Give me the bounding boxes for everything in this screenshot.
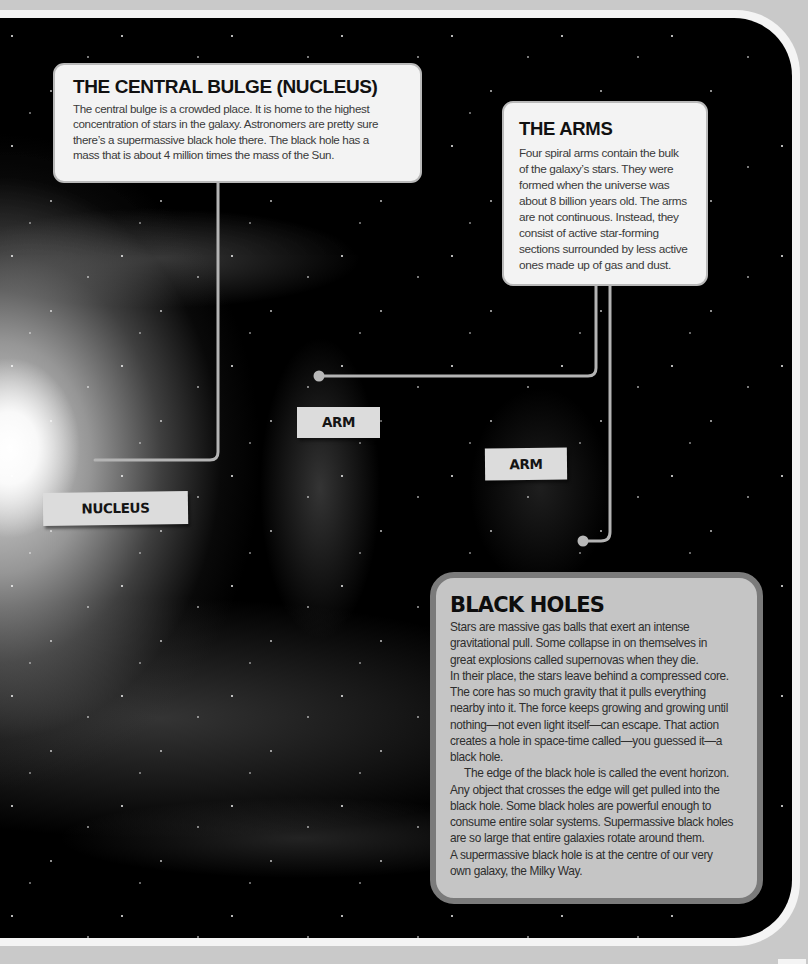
black-holes-text-line: consume entire solar systems. Supermassi…	[450, 814, 757, 830]
central-bulge-text-line: mass that is about 4 million times the m…	[73, 147, 420, 162]
black-holes-text-line: are so large that entire galaxies rotate…	[450, 830, 757, 846]
arms-text-line: of the galaxy’s stars. They were	[519, 161, 706, 177]
arms-title: THE ARMS	[519, 120, 706, 139]
black-holes-text-line: black hole. Some black holes are powerfu…	[450, 798, 757, 814]
arms-text-line: about 8 billion years old. The arms	[519, 193, 706, 209]
black-holes-text-line: Any object that crosses the edge will ge…	[450, 782, 757, 798]
arm-label-2: ARM	[485, 448, 567, 481]
nucleus-label: NUCLEUS	[43, 491, 188, 526]
arms-text-line: formed when the universe was	[519, 177, 706, 193]
central-bulge-text-line: concentration of stars in the galaxy. As…	[73, 116, 420, 131]
black-holes-text-line: nearby into it. The force keeps growing …	[450, 700, 757, 716]
black-holes-text-line: great explosions called supernovas when …	[450, 652, 757, 668]
arm-label-1: ARM	[297, 407, 380, 438]
black-holes-title: BLACK HOLES	[450, 595, 757, 616]
black-holes-text-line: The core has so much gravity that it pul…	[450, 684, 757, 700]
central-bulge-title: THE CENTRAL BULGE (NUCLEUS)	[73, 77, 420, 96]
arms-callout: THE ARMS Four spiral arms contain the bu…	[502, 101, 708, 286]
arms-text-line: Four spiral arms contain the bulk	[519, 145, 706, 161]
black-holes-text-line: own galaxy, the Milky Way.	[450, 863, 757, 879]
black-holes-text-line: A supermassive black hole is at the cent…	[450, 847, 757, 863]
black-holes-sidebar: BLACK HOLES Stars are massive gas balls …	[430, 572, 763, 904]
black-holes-text-line: creates a hole in space-time called—you …	[450, 733, 757, 749]
central-bulge-text-line: there’s a supermassive black hole there.…	[73, 132, 420, 147]
central-bulge-callout: THE CENTRAL BULGE (NUCLEUS) The central …	[53, 63, 422, 183]
arms-text-line: consist of active star-forming	[519, 225, 706, 241]
black-holes-paragraph-1: Stars are massive gas balls that exert a…	[450, 619, 757, 765]
central-bulge-text-line: The central bulge is a crowded place. It…	[73, 101, 420, 116]
arms-text-line: are not continuous. Instead, they	[519, 209, 706, 225]
black-holes-text-line: Stars are massive gas balls that exert a…	[450, 619, 757, 635]
black-holes-text-line: In their place, the stars leave behind a…	[450, 668, 757, 684]
black-holes-paragraph-2: The edge of the black hole is called the…	[450, 765, 757, 879]
black-holes-text-line: The edge of the black hole is called the…	[450, 765, 757, 781]
page-corner-mark	[778, 959, 806, 964]
black-holes-text-line: gravitational pull. Some collapse in on …	[450, 635, 757, 651]
black-holes-text-line: black hole.	[450, 749, 757, 765]
arms-text-line: sections surrounded by less active	[519, 241, 706, 257]
arms-text-line: ones made up of gas and dust.	[519, 257, 706, 273]
black-holes-text-line: nothing—not even light itself—can escape…	[450, 717, 757, 733]
